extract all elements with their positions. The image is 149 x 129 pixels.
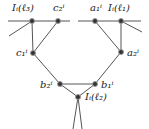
- node-I1: [119, 19, 124, 24]
- label-b1: b₁ⁱ: [101, 80, 113, 90]
- node-c2: [56, 19, 61, 24]
- node-I2: [76, 95, 81, 100]
- edge-I3-c1: [32, 21, 33, 53]
- node-b2: [58, 82, 63, 87]
- label-a1: a₁ⁱ: [90, 3, 102, 13]
- label-b2: b₂ⁱ: [40, 80, 52, 90]
- label-I1: Iᵢ(ℓ₁): [108, 3, 130, 13]
- graph-diagram: [0, 0, 149, 129]
- node-b1: [93, 82, 98, 87]
- edge-a1-a2: [95, 21, 121, 52]
- bottom-tail-right: [78, 97, 82, 129]
- label-c2: c₂ⁱ: [53, 3, 65, 13]
- label-a2: a₂ⁱ: [127, 48, 139, 58]
- node-a2: [119, 50, 124, 55]
- edge-b2-I2: [60, 84, 78, 97]
- node-c1: [31, 51, 36, 56]
- edge-c2-c1: [33, 21, 58, 53]
- right-tail-line: [121, 21, 142, 32]
- bottom-tail-left: [73, 97, 78, 129]
- label-c1: c₁ⁱ: [16, 48, 28, 58]
- label-I2: Iᵢ(ℓ₂): [85, 92, 107, 102]
- label-I3: Iᵢ(ℓ₃): [12, 3, 34, 13]
- node-I3: [30, 19, 35, 24]
- node-a1: [93, 19, 98, 24]
- left-tail-line: [9, 21, 32, 36]
